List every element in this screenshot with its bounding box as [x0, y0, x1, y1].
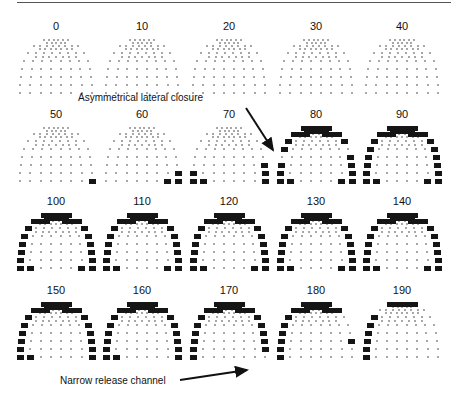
electrode-inactive — [67, 227, 69, 229]
electrode-inactive — [59, 140, 61, 142]
electrode-contact — [421, 132, 428, 137]
electrode-contact — [173, 242, 180, 247]
electrode-contact — [200, 266, 207, 271]
electrode-inactive — [225, 133, 227, 135]
electrode-inactive — [242, 148, 244, 150]
electrode-inactive — [32, 235, 34, 237]
electrode-inactive — [121, 56, 123, 58]
electrode-inactive — [50, 68, 52, 70]
electrode-inactive — [308, 56, 310, 58]
electrode-inactive — [50, 84, 52, 86]
electrode-inactive — [413, 316, 415, 318]
electrode-contact — [89, 355, 96, 360]
electrode-inactive — [109, 148, 111, 150]
electrode-inactive — [115, 180, 117, 182]
electrode-inactive — [252, 243, 254, 245]
electrode-inactive — [125, 45, 127, 47]
electrode-inactive — [145, 227, 147, 229]
electrode-inactive — [385, 45, 387, 47]
electrode-inactive — [408, 144, 410, 146]
electrode-inactive — [221, 56, 223, 58]
electrode-inactive — [55, 48, 57, 50]
electrode-inactive — [406, 267, 408, 269]
electrode-inactive — [167, 172, 169, 174]
electrode-inactive — [311, 227, 313, 229]
electrode-contact — [25, 226, 32, 231]
electrode-inactive — [264, 84, 266, 86]
electrode-inactive — [289, 84, 291, 86]
electrode-inactive — [322, 320, 324, 322]
electrode-inactive — [427, 84, 429, 86]
electrode-inactive — [60, 42, 62, 44]
electrode-contact — [389, 132, 396, 137]
electrode-inactive — [136, 243, 138, 245]
electrode-inactive — [397, 42, 399, 44]
electrode-inactive — [78, 235, 80, 237]
electrode-inactive — [223, 164, 225, 166]
electrode-contact — [104, 250, 111, 255]
electrode-inactive — [386, 348, 388, 350]
electrode-contact — [261, 339, 268, 344]
electrode-inactive — [156, 267, 158, 269]
electrode-inactive — [377, 332, 379, 334]
electrode-inactive — [335, 316, 337, 318]
electrode-inactive — [32, 324, 34, 326]
electrode-inactive — [146, 267, 148, 269]
electrode-inactive — [148, 320, 150, 322]
electrode-inactive — [426, 340, 428, 342]
electrode-inactive — [394, 320, 396, 322]
electrode-contact — [435, 258, 442, 263]
electrode-contact — [216, 219, 223, 224]
electrode-inactive — [375, 84, 377, 86]
electrode-inactive — [295, 144, 297, 146]
electrode-inactive — [125, 48, 127, 50]
electrode-inactive — [240, 140, 242, 142]
electrode-inactive — [375, 259, 377, 261]
electrode-inactive — [252, 68, 254, 70]
electrode-contact — [18, 339, 25, 344]
electrode-inactive — [60, 243, 62, 245]
electrode-inactive — [134, 127, 136, 129]
electrode-inactive — [329, 235, 331, 237]
electrode-inactive — [60, 348, 62, 350]
electrode-contact — [341, 226, 348, 231]
electrode-inactive — [243, 356, 245, 358]
electrode-inactive — [230, 127, 232, 129]
electrode-inactive — [254, 84, 256, 86]
electrode-inactive — [233, 130, 235, 132]
electrode-inactive — [401, 48, 403, 50]
electrode-inactive — [213, 356, 215, 358]
electrode-inactive — [48, 144, 50, 146]
electrode-contact — [427, 226, 434, 231]
electrode-contact — [349, 266, 356, 271]
electrode-inactive — [228, 56, 230, 58]
electrode-inactive — [330, 164, 332, 166]
electrode-inactive — [388, 231, 390, 233]
electrode-inactive — [386, 259, 388, 261]
electrode-inactive — [50, 235, 52, 237]
panel-time-label: 60 — [100, 108, 184, 120]
electrode-contact — [190, 258, 197, 263]
electrode-contact — [435, 179, 442, 184]
electrode-inactive — [55, 130, 57, 132]
electrode-inactive — [299, 45, 301, 47]
electrode-inactive — [46, 45, 48, 47]
electrode-inactive — [212, 48, 214, 50]
electrode-inactive — [300, 68, 302, 70]
electrode-inactive — [55, 42, 57, 44]
electrode-inactive — [233, 251, 235, 253]
electrode-inactive — [426, 251, 428, 253]
electrode-inactive — [241, 231, 243, 233]
electrode-inactive — [212, 133, 214, 135]
electrode-inactive — [335, 144, 337, 146]
electrode-inactive — [381, 231, 383, 233]
electrode-inactive — [116, 76, 118, 78]
electrode-inactive — [396, 76, 398, 78]
electrode-inactive — [71, 133, 73, 135]
electrode-inactive — [291, 243, 293, 245]
electrode-contact — [87, 331, 94, 336]
electrode-inactive — [77, 133, 79, 135]
electrode-contact — [261, 250, 268, 255]
electrode-inactive — [75, 140, 77, 142]
electrode-inactive — [437, 348, 439, 350]
